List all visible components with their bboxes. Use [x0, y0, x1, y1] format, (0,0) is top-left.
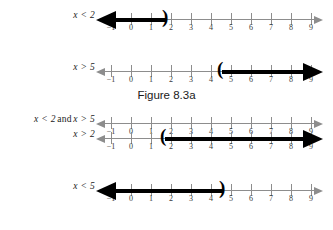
figure-caption-a: Figure 8.3a [0, 89, 333, 101]
boundary-bracket: ( [217, 59, 223, 78]
axis-tick-label: 4 [203, 142, 219, 151]
axis-tick-label: 5 [223, 75, 239, 84]
axis-tick-label: 6 [243, 23, 259, 32]
axis-tick-label: 5 [223, 194, 239, 203]
numberline-row-x-lt-2: x < 2 −10123456789 ) [0, 8, 333, 34]
number-line: −10123456789 ) [0, 179, 333, 205]
axis-tick-label: 0 [123, 194, 139, 203]
axis-tick-label: 8 [283, 142, 299, 151]
axis-tick-label: 3 [183, 194, 199, 203]
solution-arrow-right-icon [303, 63, 323, 81]
axis-tick-label: 5 [223, 23, 239, 32]
figure-8-3b: x > 2 −10123456789 ( x < 5 −10123456789 … [0, 112, 333, 230]
axis-tick-label: 4 [203, 23, 219, 32]
axis-tick-label: 2 [163, 75, 179, 84]
number-line: −10123456789 ) [0, 8, 333, 34]
axis-tick-label: 8 [283, 75, 299, 84]
axis-tick-label: −1 [103, 75, 119, 84]
solution-ray [116, 18, 166, 22]
number-line: −10123456789 ( [0, 127, 333, 153]
axis-tick-label: 6 [243, 194, 259, 203]
axis-tick-label: 1 [143, 75, 159, 84]
axis-tick-label: 6 [243, 142, 259, 151]
axis-tick-label: 7 [263, 75, 279, 84]
boundary-bracket: ) [219, 178, 225, 197]
axis-tick-label: 1 [143, 23, 159, 32]
axis-arrow-right-icon [314, 16, 323, 24]
axis-tick-label: 5 [223, 142, 239, 151]
axis-arrow-left-icon [96, 135, 105, 143]
solution-arrow-left-icon [96, 182, 116, 200]
solution-arrow-right-icon [303, 130, 323, 148]
axis-tick-label: 3 [183, 142, 199, 151]
figure-8-3a: x < 2 −10123456789 ) x > 5 −10123456789 … [0, 0, 333, 112]
solution-ray [165, 137, 303, 141]
axis-tick-label: 6 [243, 75, 259, 84]
axis-tick-label: 9 [303, 194, 319, 203]
axis-tick-label: 1 [143, 194, 159, 203]
axis-tick-label: 8 [283, 194, 299, 203]
boundary-bracket: ( [160, 126, 166, 145]
axis-arrow-left-icon [96, 68, 105, 76]
axis-tick-label: 7 [263, 142, 279, 151]
axis-tick-label: 7 [263, 23, 279, 32]
axis-tick-label: 2 [163, 194, 179, 203]
axis-tick-label: 0 [123, 142, 139, 151]
axis-tick-label: 3 [183, 75, 199, 84]
axis-tick-label: 4 [203, 194, 219, 203]
solution-arrow-left-icon [96, 11, 116, 29]
numberline-row-x-gt-2: x > 2 −10123456789 ( [0, 127, 333, 153]
boundary-bracket: ) [162, 7, 168, 26]
axis-tick-label: −1 [103, 142, 119, 151]
solution-ray [116, 189, 223, 193]
axis-tick-label: 0 [123, 75, 139, 84]
solution-ray [222, 70, 303, 74]
axis-tick-label: 7 [263, 194, 279, 203]
axis-tick-label: 1 [143, 142, 159, 151]
axis-tick-label: 8 [283, 23, 299, 32]
numberline-row-x-lt-5: x < 5 −10123456789 ) [0, 179, 333, 205]
numberline-row-x-gt-5: x > 5 −10123456789 ( [0, 60, 333, 86]
number-line: −10123456789 ( [0, 60, 333, 86]
axis-tick-label: 9 [303, 23, 319, 32]
axis-tick-label: 3 [183, 23, 199, 32]
axis-tick-label: 0 [123, 23, 139, 32]
axis-arrow-right-icon [314, 187, 323, 195]
